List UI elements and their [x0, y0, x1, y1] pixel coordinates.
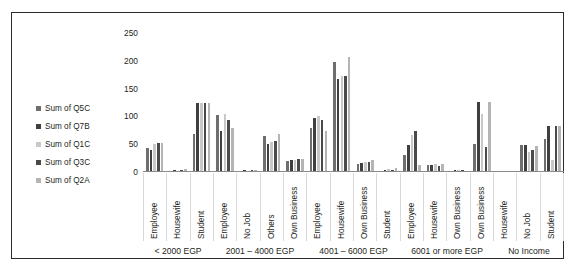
bar-4[interactable] — [157, 143, 160, 172]
legend-swatch-icon — [36, 160, 41, 165]
legend-item-4[interactable]: Sum of Q3C — [36, 153, 118, 171]
y-axis-tick-label: 200 — [124, 57, 138, 66]
bar-1[interactable] — [216, 115, 219, 172]
category-label-cell: Housewife — [330, 173, 353, 241]
category-label: Own Business — [360, 187, 369, 239]
bar-group — [400, 33, 423, 172]
category-label-cell: Own Business — [446, 173, 469, 241]
bar-2[interactable] — [150, 150, 153, 172]
bar-4[interactable] — [414, 131, 417, 172]
group-label: 2001 – 4000 EGP — [213, 243, 307, 259]
category-label: Employee — [407, 203, 416, 239]
bar-1[interactable] — [473, 144, 476, 172]
legend-item-3[interactable]: Sum of Q1C — [36, 135, 118, 153]
group-label: 4001 – 6000 EGP — [307, 243, 401, 259]
bar-2[interactable] — [477, 102, 480, 172]
category-label-cell: Own Business — [283, 173, 306, 241]
bar-group — [283, 33, 306, 172]
group-label: 6001 or more EGP — [400, 243, 494, 259]
category-label: No Job — [243, 213, 252, 239]
bar-1[interactable] — [310, 128, 313, 172]
bar-1[interactable] — [263, 136, 266, 172]
bar-groups — [143, 33, 564, 172]
category-label-cell: No Job — [516, 173, 539, 241]
bar-3[interactable] — [153, 144, 156, 172]
bar-5[interactable] — [161, 143, 164, 172]
bar-2[interactable] — [220, 131, 223, 172]
legend-item-5[interactable]: Sum of Q2A — [36, 171, 118, 189]
bar-2[interactable] — [267, 144, 270, 172]
category-label: Employee — [220, 203, 229, 239]
bar-2[interactable] — [547, 126, 550, 172]
bar-group — [354, 33, 377, 172]
bar-1[interactable] — [333, 62, 336, 172]
bar-group — [447, 33, 470, 172]
chart-legend: Sum of Q5CSum of Q7BSum of Q1CSum of Q3C… — [36, 99, 118, 189]
legend-item-label: Sum of Q5C — [45, 104, 90, 113]
bar-4[interactable] — [555, 126, 558, 172]
group-axis-labels: < 2000 EGP2001 – 4000 EGP4001 – 6000 EGP… — [143, 243, 564, 259]
bar-group — [517, 33, 540, 172]
category-label-cell: Employee — [306, 173, 329, 241]
legend-item-2[interactable]: Sum of Q7B — [36, 117, 118, 135]
bar-3[interactable] — [341, 76, 344, 172]
legend-item-label: Sum of Q7B — [45, 122, 90, 131]
category-label-cell: Employee — [213, 173, 236, 241]
bar-group — [494, 33, 517, 172]
bar-2[interactable] — [313, 118, 316, 172]
category-label: Housewife — [173, 201, 182, 239]
bar-5[interactable] — [558, 126, 561, 172]
bar-4[interactable] — [344, 76, 347, 172]
bar-4[interactable] — [274, 141, 277, 172]
bar-3[interactable] — [528, 152, 531, 172]
bar-3[interactable] — [317, 116, 320, 172]
legend-item-1[interactable]: Sum of Q5C — [36, 99, 118, 117]
category-label: Student — [383, 211, 392, 239]
bar-4[interactable] — [531, 150, 534, 172]
bar-group — [166, 33, 189, 172]
bar-2[interactable] — [196, 103, 199, 173]
category-label: Employee — [313, 203, 322, 239]
bar-1[interactable] — [146, 148, 149, 172]
y-axis-tick-label: 250 — [124, 29, 138, 38]
bar-4[interactable] — [227, 120, 230, 172]
bar-1[interactable] — [520, 145, 523, 172]
plot-area — [143, 33, 564, 172]
bar-5[interactable] — [208, 103, 211, 172]
y-axis-tick-label: 100 — [124, 112, 138, 121]
bar-3[interactable] — [224, 114, 227, 172]
bar-2[interactable] — [407, 145, 410, 172]
bar-group — [237, 33, 260, 172]
bar-group — [260, 33, 283, 172]
bar-1[interactable] — [403, 155, 406, 172]
category-label: Housewife — [500, 201, 509, 239]
bar-4[interactable] — [485, 147, 488, 172]
category-label-cell: Own Business — [470, 173, 493, 241]
bar-2[interactable] — [337, 79, 340, 172]
bar-3[interactable] — [481, 114, 484, 172]
bar-3[interactable] — [270, 142, 273, 172]
bar-5[interactable] — [535, 146, 538, 172]
chart-frame: Sum of Q5CSum of Q7BSum of Q1CSum of Q3C… — [11, 12, 564, 259]
group-label: No Income — [494, 243, 564, 259]
bar-4[interactable] — [321, 120, 324, 172]
bar-4[interactable] — [204, 103, 207, 172]
bar-2[interactable] — [524, 145, 527, 172]
category-label: Student — [197, 211, 206, 239]
bar-5[interactable] — [348, 57, 351, 172]
category-label-cell: Housewife — [423, 173, 446, 241]
bar-1[interactable] — [193, 134, 196, 172]
category-label: No Job — [523, 213, 532, 239]
bar-3[interactable] — [200, 103, 203, 172]
bar-5[interactable] — [231, 128, 234, 172]
bar-5[interactable] — [278, 134, 281, 172]
legend-item-label: Sum of Q3C — [45, 158, 90, 167]
bar-3[interactable] — [411, 135, 414, 172]
category-label: Others — [267, 214, 276, 239]
bar-5[interactable] — [325, 131, 328, 172]
legend-swatch-icon — [36, 124, 41, 129]
bar-5[interactable] — [488, 102, 491, 172]
category-label: Employee — [150, 203, 159, 239]
bar-group — [377, 33, 400, 172]
bar-1[interactable] — [544, 139, 547, 172]
